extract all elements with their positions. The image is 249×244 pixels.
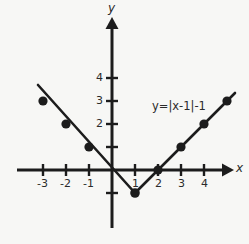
x-axis-arrow-icon <box>222 164 234 177</box>
data-point <box>199 119 208 128</box>
y-tick-label-3: 3 <box>96 94 103 107</box>
x-tick-label-2: 2 <box>155 177 162 190</box>
x-tick-label-neg3: -3 <box>37 177 48 190</box>
x-tick-label-neg2: -2 <box>60 177 71 190</box>
y-axis-arrow-icon <box>106 17 119 29</box>
data-point <box>61 119 70 128</box>
y-axis-label: y <box>108 1 115 15</box>
y-tick-label-2: 2 <box>96 117 103 130</box>
x-tick-label-4: 4 <box>201 177 208 190</box>
data-point <box>222 96 231 105</box>
x-tick-label-neg1: -1 <box>83 177 94 190</box>
y-tick-label-4: 4 <box>96 71 103 84</box>
x-tick-label-1: 1 <box>132 177 139 190</box>
x-tick-label-3: 3 <box>178 177 185 190</box>
equation-label: y=|x-1|-1 <box>152 99 206 113</box>
data-point <box>84 142 93 151</box>
data-point <box>176 142 185 151</box>
data-point <box>38 96 47 105</box>
x-axis-label: x <box>236 161 243 175</box>
coordinate-plane <box>0 0 249 244</box>
data-point <box>153 165 162 174</box>
graph-figure: -3 -2 -1 1 2 3 4 4 3 2 y x y=|x-1|-1 <box>0 0 249 244</box>
